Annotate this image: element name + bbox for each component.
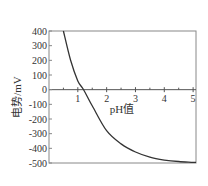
x-tick-label: 2: [104, 93, 109, 104]
y-tick-label: -100: [29, 99, 47, 110]
y-tick-label: -200: [29, 114, 47, 125]
y-tick-label: 400: [32, 26, 47, 37]
y-axis-ticks: 4003002001000-100-200-300-400-500: [29, 26, 52, 169]
y-tick-label: -500: [29, 158, 47, 169]
plot-border: [49, 31, 196, 163]
potential-ph-chart: 4003002001000-100-200-300-400-500 12345 …: [0, 0, 208, 186]
x-tick-label: 1: [75, 93, 80, 104]
y-tick-label: 200: [32, 55, 47, 66]
y-tick-label: 300: [32, 40, 47, 51]
y-tick-label: 100: [32, 70, 47, 81]
x-axis-label: pH值: [110, 103, 134, 115]
y-tick-label: -400: [29, 143, 47, 154]
x-tick-label: 4: [162, 93, 167, 104]
plot-frame: [49, 31, 196, 163]
x-tick-label: 5: [191, 93, 196, 104]
data-series-line: [63, 31, 196, 162]
y-tick-label: -300: [29, 128, 47, 139]
y-axis-label: 电势/mV: [11, 76, 23, 118]
y-tick-label: 0: [42, 84, 47, 95]
